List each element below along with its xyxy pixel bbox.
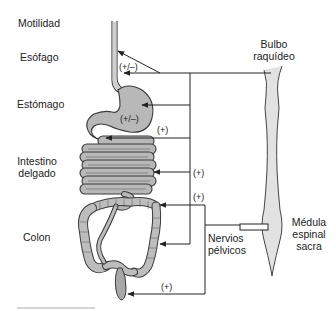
medula-label-line2: espinal bbox=[288, 228, 330, 240]
small-intestine-shape bbox=[80, 136, 156, 208]
medula-label-line1: Médula bbox=[288, 216, 330, 228]
nervios-label-line2: pélvicos bbox=[208, 244, 246, 256]
nervios-pelvicos-label: Nervios pélvicos bbox=[208, 232, 246, 256]
esophagus-shape bbox=[112, 21, 122, 92]
medula-espinal-label: Médula espinal sacra bbox=[288, 216, 330, 252]
rectum-effect: (+) bbox=[161, 282, 172, 292]
stomach-label: Estómago bbox=[17, 98, 64, 110]
bulbo-label-line1: Bulbo bbox=[250, 38, 298, 50]
small-intestine-upper-effect: (+) bbox=[157, 125, 168, 135]
small-intestine-label-line1: Intestino bbox=[16, 155, 58, 167]
small-intestine-lower-effect: (+) bbox=[193, 168, 204, 178]
medula-label-line3: sacra bbox=[288, 240, 330, 252]
small-intestine-label-line2: delgado bbox=[16, 167, 58, 179]
colon-effect: (+) bbox=[193, 192, 204, 202]
motility-title: Motilidad bbox=[18, 17, 60, 29]
esophagus-label: Esófago bbox=[20, 51, 59, 63]
bulbo-label-line2: raquídeo bbox=[250, 50, 298, 62]
nervios-label-line1: Nervios bbox=[208, 232, 246, 244]
spinal-cord-shape bbox=[262, 66, 282, 276]
bulbo-raquideo-label: Bulbo raquídeo bbox=[250, 38, 298, 62]
colon-shape bbox=[80, 199, 160, 300]
colon-label: Colon bbox=[23, 231, 50, 243]
stomach-shape bbox=[87, 86, 153, 140]
small-intestine-label: Intestino delgado bbox=[16, 155, 58, 179]
stomach-effect: (+/–) bbox=[120, 114, 139, 124]
esophagus-effect: (+/–) bbox=[119, 62, 138, 72]
